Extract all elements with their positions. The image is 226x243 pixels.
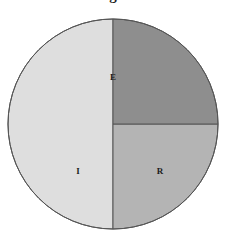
pie-chart: E I R — [0, 0, 226, 243]
pie-slice-label-E: E — [110, 72, 116, 82]
pie-slice-R[interactable] — [113, 19, 218, 124]
pie-slice-label-R: R — [157, 166, 164, 176]
figure-canvas: g E I R — [0, 0, 226, 243]
pie-slice-E[interactable] — [8, 19, 113, 229]
pie-chart-svg: E I R — [0, 0, 226, 243]
pie-slice-label-I: I — [76, 166, 80, 176]
pie-slice-I[interactable] — [113, 124, 218, 229]
